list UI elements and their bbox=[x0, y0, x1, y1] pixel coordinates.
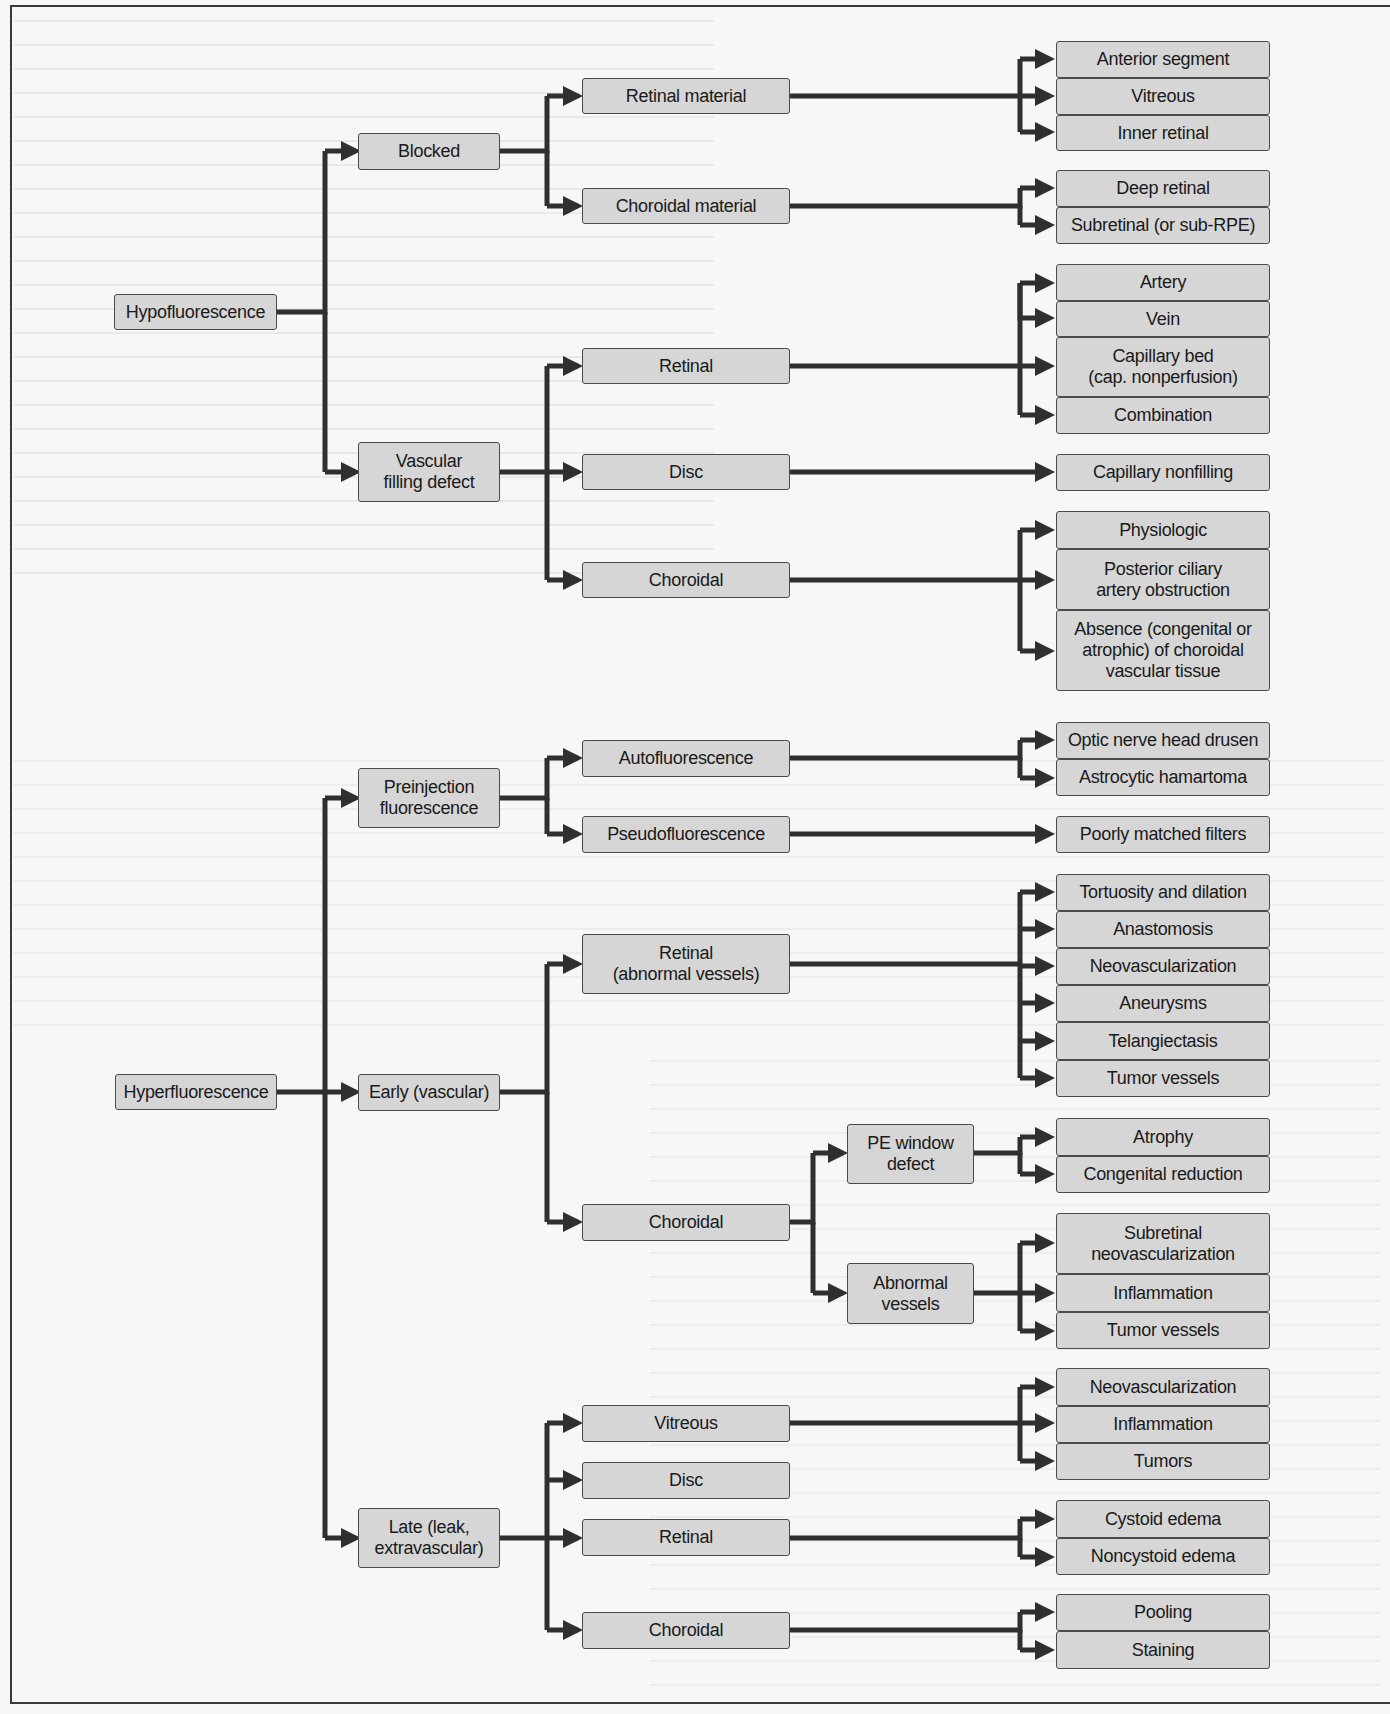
leaf-congenital-reduction: Congenital reduction bbox=[1056, 1156, 1270, 1193]
leaf-subretinal-sub-rpe: Subretinal (or sub-RPE) bbox=[1056, 207, 1270, 244]
leaf-noncystoid-edema: Noncystoid edema bbox=[1056, 1538, 1270, 1575]
node-late-vitreous: Vitreous bbox=[582, 1405, 790, 1442]
leaf-artery: Artery bbox=[1056, 264, 1270, 301]
leaf-neovascularization-late: Neovascularization bbox=[1056, 1368, 1270, 1406]
leaf-physiologic: Physiologic bbox=[1056, 511, 1270, 549]
leaf-pooling: Pooling bbox=[1056, 1594, 1270, 1631]
leaf-aneurysms: Aneurysms bbox=[1056, 985, 1270, 1022]
node-early-retinal-abnormal-vessels: Retinal (abnormal vessels) bbox=[582, 934, 790, 994]
leaf-capillary-nonfilling: Capillary nonfilling bbox=[1056, 454, 1270, 491]
leaf-absence-choroidal-vascular-tissue: Absence (congenital or atrophic) of chor… bbox=[1056, 610, 1270, 691]
node-preinjection-fluorescence: Preinjection fluorescence bbox=[358, 768, 500, 828]
leaf-subretinal-neovascularization: Subretinal neovascularization bbox=[1056, 1213, 1270, 1274]
leaf-deep-retinal: Deep retinal bbox=[1056, 170, 1270, 207]
node-early-choroidal: Choroidal bbox=[582, 1204, 790, 1241]
leaf-anterior-segment: Anterior segment bbox=[1056, 41, 1270, 78]
node-late-leak-extravascular: Late (leak, extravascular) bbox=[358, 1508, 500, 1568]
node-autofluorescence: Autofluorescence bbox=[582, 740, 790, 777]
leaf-tumor-vessels-retinal: Tumor vessels bbox=[1056, 1060, 1270, 1097]
leaf-anastomosis: Anastomosis bbox=[1056, 911, 1270, 948]
node-late-retinal: Retinal bbox=[582, 1519, 790, 1556]
leaf-vein: Vein bbox=[1056, 301, 1270, 337]
leaf-vitreous: Vitreous bbox=[1056, 78, 1270, 115]
leaf-neovascularization-early: Neovascularization bbox=[1056, 948, 1270, 985]
leaf-poorly-matched-filters: Poorly matched filters bbox=[1056, 816, 1270, 853]
leaf-optic-nerve-head-drusen: Optic nerve head drusen bbox=[1056, 722, 1270, 759]
node-early-vascular: Early (vascular) bbox=[358, 1074, 500, 1111]
node-vascular-filling-defect: Vascular filling defect bbox=[358, 442, 500, 502]
node-pe-window-defect: PE window defect bbox=[847, 1124, 974, 1184]
leaf-combination: Combination bbox=[1056, 397, 1270, 434]
leaf-telangiectasis: Telangiectasis bbox=[1056, 1022, 1270, 1060]
node-late-disc: Disc bbox=[582, 1462, 790, 1499]
leaf-inner-retinal: Inner retinal bbox=[1056, 115, 1270, 151]
leaf-inflammation-late: Inflammation bbox=[1056, 1406, 1270, 1443]
node-hypo-choroidal: Choroidal bbox=[582, 562, 790, 598]
leaf-tortuosity-dilation: Tortuosity and dilation bbox=[1056, 874, 1270, 911]
node-hypo-disc: Disc bbox=[582, 454, 790, 490]
leaf-inflammation-choroidal: Inflammation bbox=[1056, 1274, 1270, 1312]
node-hyperfluorescence: Hyperfluorescence bbox=[115, 1074, 277, 1110]
leaf-cystoid-edema: Cystoid edema bbox=[1056, 1500, 1270, 1538]
node-abnormal-vessels: Abnormal vessels bbox=[847, 1263, 974, 1324]
node-retinal-material: Retinal material bbox=[582, 78, 790, 114]
node-choroidal-material: Choroidal material bbox=[582, 188, 790, 224]
leaf-posterior-ciliary-artery-obstruction: Posterior ciliary artery obstruction bbox=[1056, 549, 1270, 610]
node-late-choroidal: Choroidal bbox=[582, 1612, 790, 1649]
node-hypo-retinal: Retinal bbox=[582, 348, 790, 384]
node-hypofluorescence: Hypofluorescence bbox=[114, 294, 277, 330]
leaf-atrophy: Atrophy bbox=[1056, 1118, 1270, 1156]
leaf-astrocytic-hamartoma: Astrocytic hamartoma bbox=[1056, 759, 1270, 796]
leaf-tumor-vessels-choroidal: Tumor vessels bbox=[1056, 1312, 1270, 1349]
node-blocked: Blocked bbox=[358, 133, 500, 170]
leaf-capillary-bed: Capillary bed (cap. nonperfusion) bbox=[1056, 337, 1270, 397]
node-pseudofluorescence: Pseudofluorescence bbox=[582, 816, 790, 853]
leaf-tumors: Tumors bbox=[1056, 1443, 1270, 1480]
leaf-staining: Staining bbox=[1056, 1631, 1270, 1669]
